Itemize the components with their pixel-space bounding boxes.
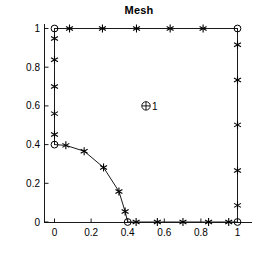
y-tick-label-1: 0.2 [26, 178, 40, 189]
axis-frame [44, 24, 252, 223]
y-axis-ticks [45, 29, 49, 223]
node-marker-star [51, 83, 58, 91]
mesh-boundary-node-markers [51, 25, 241, 227]
x-axis-tick-labels: 00.20.40.60.81 [52, 227, 241, 238]
subdomain-label-group: 1 [142, 101, 158, 112]
mesh-figure-window: Mesh 00.20.40.60.81 00.20.40.60.81 1 [0, 0, 278, 254]
node-marker-star [234, 41, 241, 49]
mesh-plot-svg: 00.20.40.60.81 00.20.40.60.81 1 [0, 0, 278, 254]
node-marker-star [100, 163, 107, 171]
mesh-boundary-edges [55, 29, 238, 223]
node-marker-star [122, 208, 129, 216]
y-tick-label-2: 0.4 [26, 139, 40, 150]
node-marker-star [51, 110, 58, 118]
node-marker-star [234, 121, 241, 129]
x-tick-label-3: 0.6 [157, 227, 171, 238]
subdomain-label: 1 [152, 101, 158, 112]
node-marker-star [234, 76, 241, 84]
node-marker-star [51, 56, 58, 64]
x-tick-label-4: 0.8 [194, 227, 208, 238]
y-tick-label-5: 1 [34, 23, 40, 34]
x-tick-label-5: 1 [235, 227, 241, 238]
node-marker-star [234, 167, 241, 175]
x-tick-label-0: 0 [52, 227, 58, 238]
y-tick-label-3: 0.6 [26, 100, 40, 111]
node-marker-star [234, 201, 241, 209]
node-marker-star [115, 187, 122, 195]
node-marker-star [51, 131, 58, 139]
y-axis-tick-labels: 00.20.40.60.81 [26, 23, 40, 228]
edge-arc-edge [55, 145, 128, 222]
node-marker-star [81, 147, 88, 155]
x-tick-label-2: 0.4 [121, 227, 135, 238]
y-tick-label-0: 0 [34, 217, 40, 228]
mesh-corner-node-markers [51, 25, 241, 225]
node-marker-star [51, 35, 58, 43]
y-tick-label-4: 0.8 [26, 62, 40, 73]
x-tick-label-1: 0.2 [84, 227, 98, 238]
